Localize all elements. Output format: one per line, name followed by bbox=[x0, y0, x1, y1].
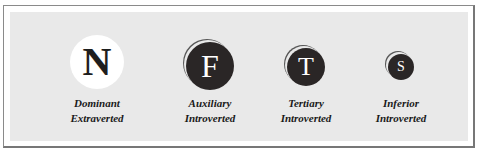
function-circle-inferior: S bbox=[388, 54, 414, 80]
attitude-label: Introverted bbox=[155, 111, 265, 126]
function-letter: T bbox=[298, 54, 314, 80]
function-circle-tertiary: T bbox=[287, 48, 325, 86]
function-label-tertiary: Tertiary Introverted bbox=[251, 96, 361, 126]
attitude-label: Introverted bbox=[251, 111, 361, 126]
function-letter: S bbox=[397, 60, 405, 74]
role-label: Tertiary bbox=[251, 96, 361, 111]
function-letter: N bbox=[83, 42, 112, 82]
function-label-inferior: Inferior Introverted bbox=[346, 96, 456, 126]
function-letter: F bbox=[201, 50, 219, 82]
role-label: Auxiliary bbox=[155, 96, 265, 111]
attitude-label: Introverted bbox=[346, 111, 456, 126]
function-circle-auxiliary: F bbox=[186, 42, 234, 90]
function-circle-dominant: N bbox=[70, 35, 124, 89]
role-label: Inferior bbox=[346, 96, 456, 111]
role-label: Dominant bbox=[42, 96, 152, 111]
function-label-auxiliary: Auxiliary Introverted bbox=[155, 96, 265, 126]
attitude-label: Extraverted bbox=[42, 111, 152, 126]
function-label-dominant: Dominant Extraverted bbox=[42, 96, 152, 126]
